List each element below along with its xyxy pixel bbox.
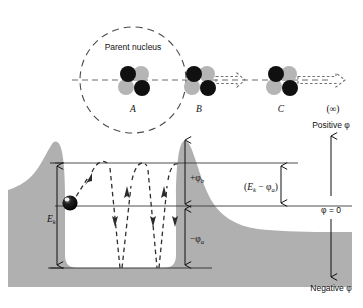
position-label-c: C — [278, 104, 285, 114]
proton-charge-glyph: + — [140, 84, 145, 94]
proton-charge-glyph: + — [206, 84, 211, 94]
position-label-infinity: (∞) — [326, 104, 339, 115]
position-label-b: B — [196, 104, 202, 114]
phi-scale-positive-label: Positive φ — [312, 120, 350, 130]
position-label-a: A — [129, 104, 136, 114]
alpha-particle-ball — [62, 195, 77, 210]
proton-charge-glyph: + — [274, 70, 279, 80]
alpha-decay-figure: Ek +φb −φa (Ek − φa) Positive φ φ = 0 Ne… — [0, 0, 363, 308]
proton-charge-glyph: + — [288, 84, 293, 94]
proton-charge-glyph: + — [126, 70, 131, 80]
phi-scale-negative-label: Negative φ — [310, 283, 352, 293]
figure-canvas: Ek +φb −φa (Ek − φa) Positive φ φ = 0 Ne… — [0, 0, 363, 308]
parent-nucleus-label: Parent nucleus — [105, 42, 162, 52]
proton-charge-glyph: + — [192, 70, 197, 80]
phi-scale-zero-label: φ = 0 — [321, 205, 341, 215]
